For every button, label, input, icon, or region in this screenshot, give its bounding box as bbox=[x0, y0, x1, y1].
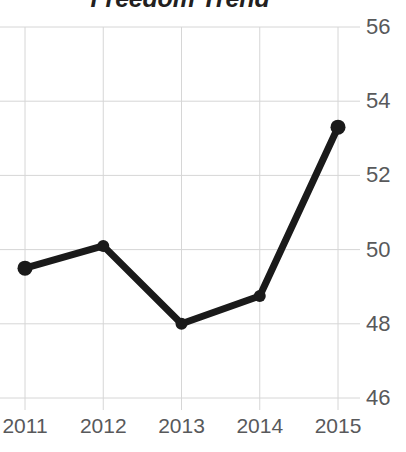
plot-svg bbox=[0, 0, 360, 410]
y-axis-tick-label: 46 bbox=[366, 387, 406, 409]
y-axis-tick-label: 54 bbox=[366, 90, 406, 112]
line-chart: Freedom Trend 565452504846 2011201220132… bbox=[0, 0, 406, 452]
data-point-marker bbox=[18, 261, 33, 276]
x-axis-tick-label: 2015 bbox=[298, 414, 378, 438]
vertical-gridlines bbox=[25, 27, 338, 410]
y-axis-tick-label: 48 bbox=[366, 313, 406, 335]
x-axis-tick-label: 2014 bbox=[220, 414, 300, 438]
data-point-marker bbox=[176, 318, 188, 330]
y-axis-tick-label: 56 bbox=[366, 16, 406, 38]
horizontal-gridlines bbox=[0, 27, 360, 398]
x-axis-tick-label: 2012 bbox=[63, 414, 143, 438]
data-point-marker bbox=[331, 120, 346, 135]
x-axis-tick-label: 2011 bbox=[0, 414, 65, 438]
plot-area bbox=[0, 0, 360, 410]
y-axis-tick-label: 50 bbox=[366, 239, 406, 261]
data-point-marker bbox=[97, 240, 109, 252]
y-axis-tick-label: 52 bbox=[366, 164, 406, 186]
x-axis-tick-label: 2013 bbox=[142, 414, 222, 438]
data-point-marker bbox=[254, 290, 266, 302]
